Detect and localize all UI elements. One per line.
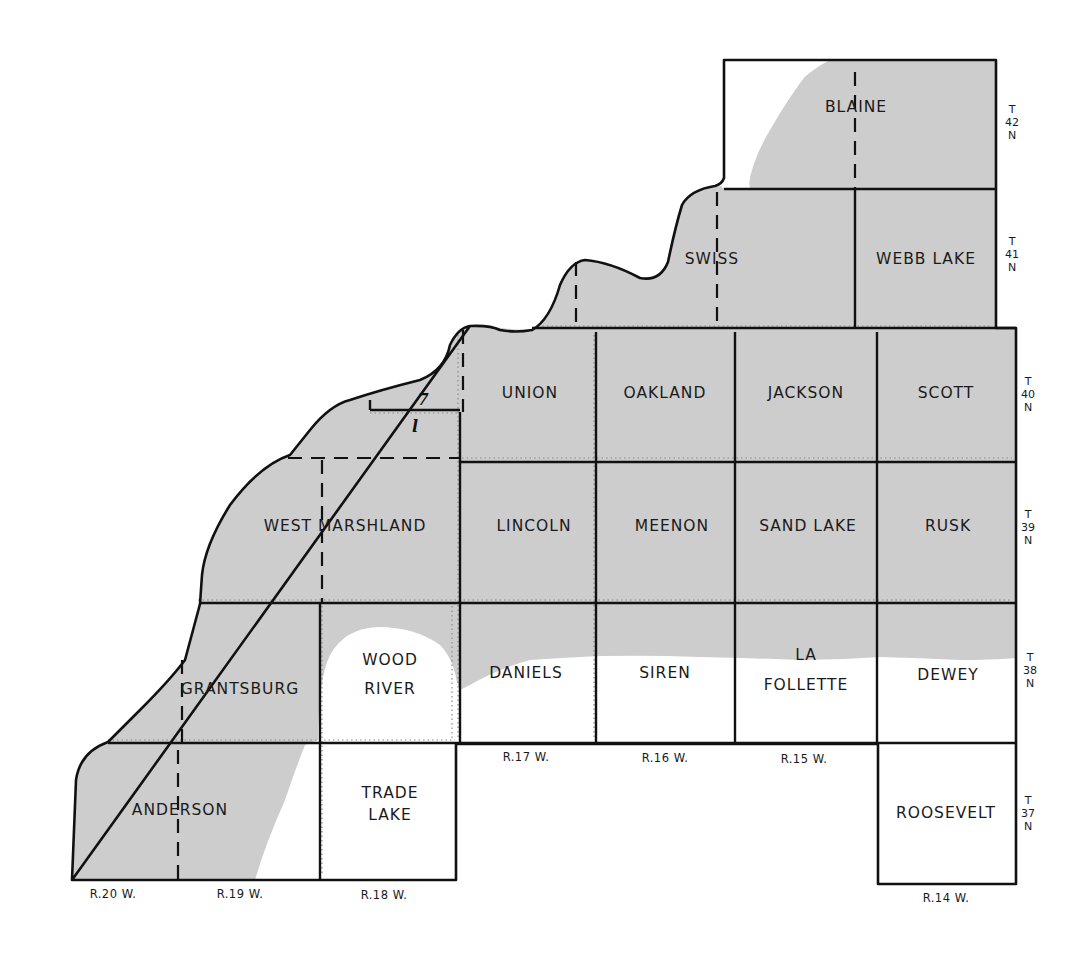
svg-text:42: 42 (1005, 116, 1019, 129)
svg-text:T: T (1008, 103, 1016, 116)
township-daniels: DANIELS (489, 664, 563, 682)
svg-text:37: 37 (1021, 807, 1035, 820)
township-blaine: BLAINE (825, 98, 887, 116)
svg-text:N: N (1008, 129, 1016, 142)
township-lincoln: LINCOLN (496, 517, 571, 535)
t38n-label: T 38 N (1023, 651, 1037, 690)
township-union: UNION (502, 384, 558, 402)
svg-text:N: N (1024, 534, 1032, 547)
township-webb-lake: WEBB LAKE (876, 250, 976, 268)
township-map: 7 l BLAINE SWISS WEBB LAKE UNION OAKLAND… (0, 0, 1090, 955)
marker-upper: 7 (417, 390, 428, 409)
svg-text:T: T (1024, 794, 1032, 807)
township-trade-lake-line2: LAKE (368, 806, 412, 824)
township-sand-lake: SAND LAKE (759, 517, 857, 535)
svg-text:N: N (1024, 401, 1032, 414)
township-scott: SCOTT (918, 384, 975, 402)
t40n-label: T 40 N (1021, 375, 1035, 414)
township-siren: SIREN (639, 664, 691, 682)
t39n-label: T 39 N (1021, 508, 1035, 547)
svg-text:N: N (1026, 677, 1034, 690)
range-r19w: R.19 W. (217, 887, 264, 901)
range-r20w: R.20 W. (90, 887, 137, 901)
township-dewey: DEWEY (917, 666, 978, 684)
svg-text:T: T (1024, 375, 1032, 388)
range-r15w: R.15 W. (781, 752, 828, 766)
township-wood-river-line1: WOOD (362, 651, 418, 669)
marker-lower: l (412, 417, 418, 436)
svg-text:T: T (1008, 235, 1016, 248)
range-r17w: R.17 W. (503, 750, 550, 764)
range-r14w: R.14 W. (923, 891, 970, 905)
township-west-marshland: WEST MARSHLAND (264, 517, 427, 535)
township-grantsburg: GRANTSBURG (181, 680, 299, 698)
svg-text:38: 38 (1023, 664, 1037, 677)
township-meenon: MEENON (635, 517, 709, 535)
township-rusk: RUSK (925, 517, 971, 535)
svg-text:N: N (1024, 820, 1032, 833)
township-la-follette-line1: LA (795, 646, 817, 664)
range-r16w: R.16 W. (642, 751, 689, 765)
svg-text:N: N (1008, 261, 1016, 274)
township-swiss: SWISS (685, 250, 739, 268)
range-r18w: R.18 W. (361, 888, 408, 902)
svg-text:40: 40 (1021, 388, 1035, 401)
svg-text:41: 41 (1005, 248, 1019, 261)
township-wood-river-line2: RIVER (364, 680, 416, 698)
svg-text:T: T (1026, 651, 1034, 664)
township-trade-lake-line1: TRADE (361, 784, 419, 802)
t41n-label: T 41 N (1005, 235, 1019, 274)
township-anderson: ANDERSON (132, 801, 228, 819)
svg-text:T: T (1024, 508, 1032, 521)
township-la-follette-line2: FOLLETTE (764, 676, 849, 694)
township-oakland: OAKLAND (624, 384, 707, 402)
township-roosevelt: ROOSEVELT (896, 804, 996, 822)
township-jackson: JACKSON (767, 384, 844, 402)
svg-text:39: 39 (1021, 521, 1035, 534)
t42n-label: T 42 N (1005, 103, 1019, 142)
t37n-label: T 37 N (1021, 794, 1035, 833)
